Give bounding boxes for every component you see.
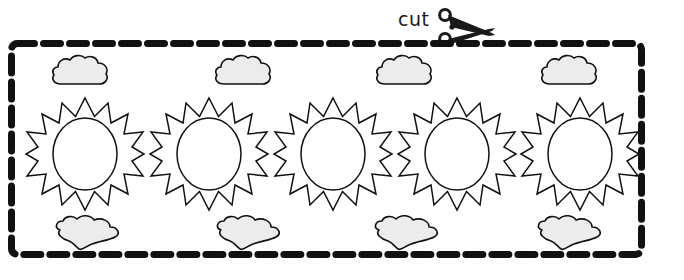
- sun-icon: [272, 96, 394, 212]
- cloud-icon: [371, 214, 441, 252]
- cloud-icon: [212, 54, 274, 86]
- cloud-icon: [213, 214, 283, 252]
- cloud-icon: [538, 54, 600, 86]
- sun-row: [0, 96, 684, 212]
- cloud-icon: [49, 54, 111, 86]
- sun-icon: [24, 96, 146, 212]
- cloud-row-bottom: [0, 214, 684, 254]
- cloud-icon: [534, 214, 604, 252]
- cloud-icon: [52, 214, 122, 252]
- worksheet-canvas: cut: [0, 0, 684, 280]
- page-title: Sun and Clouds Cut-Out Worksheet: [0, 0, 1, 1]
- cloud-row-top: [0, 54, 684, 90]
- cut-label: cut: [398, 10, 429, 29]
- sun-icon: [148, 96, 270, 212]
- cloud-icon: [373, 54, 435, 86]
- sun-icon: [519, 96, 641, 212]
- sun-icon: [396, 96, 518, 212]
